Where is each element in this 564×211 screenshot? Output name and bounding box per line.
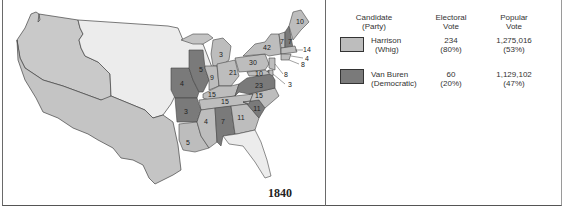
svg-text:3: 3 [219,51,223,58]
state-new-york [243,34,281,56]
svg-text:8: 8 [301,61,305,68]
svg-text:15: 15 [208,91,216,98]
svg-text:10: 10 [255,70,263,77]
electoral-vote-harrison: 234 (80%) [426,36,476,54]
svg-text:4: 4 [180,80,184,87]
state-arkansas [175,98,201,122]
region-florida-territory [223,130,271,178]
svg-text:21: 21 [229,69,237,76]
state-new-jersey [269,58,275,70]
header-candidate: Candidate (Party) [344,13,404,31]
svg-text:7: 7 [288,38,292,45]
svg-text:5: 5 [186,139,190,146]
svg-text:23: 23 [255,82,263,89]
svg-text:15: 15 [255,92,263,99]
svg-text:11: 11 [253,105,260,112]
svg-text:9: 9 [210,74,214,81]
svg-text:15: 15 [221,98,229,105]
electoral-vote-van-buren: 60 (20%) [426,70,476,88]
svg-text:42: 42 [263,44,271,51]
svg-text:7: 7 [280,38,284,45]
election-year-label: 1840 [268,186,292,201]
state-connecticut [281,54,291,60]
results-legend: Candidate (Party) Electoral Vote Popular… [326,0,562,206]
candidate-harrison: Harrison (Whig) [371,36,431,54]
election-map: 10 7 7 14 4 8 42 30 8 3 10 23 3 21 9 5 4… [3,0,325,206]
svg-text:11: 11 [237,114,244,121]
svg-text:3: 3 [184,108,188,115]
popular-vote-van-buren: 1,129,102 (47%) [486,70,542,88]
state-maine [289,10,309,40]
popular-vote-harrison: 1,275,016 (53%) [486,36,542,54]
svg-text:10: 10 [296,18,304,25]
svg-text:5: 5 [199,66,203,73]
header-electoral-vote: Electoral Vote [426,13,476,31]
svg-text:8: 8 [284,71,288,78]
democratic-color-swatch [340,69,364,84]
svg-text:4: 4 [305,55,309,62]
svg-text:14: 14 [303,46,311,53]
svg-text:30: 30 [249,59,257,66]
svg-text:7: 7 [221,118,225,125]
whig-color-swatch [340,37,364,52]
svg-text:3: 3 [288,81,292,88]
svg-text:4: 4 [204,118,208,125]
header-popular-vote: Popular Vote [486,13,542,31]
